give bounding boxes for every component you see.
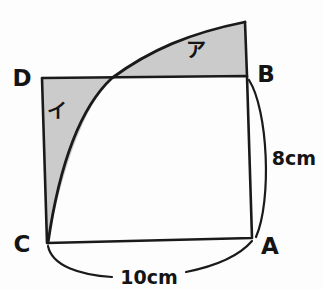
- figure-canvas: D B C A ア イ 8cm 10cm: [0, 0, 323, 290]
- vertex-label-c: C: [14, 231, 31, 257]
- dimension-label-height: 8cm: [272, 147, 316, 169]
- vertex-label-b: B: [257, 61, 275, 87]
- shaded-region-a: [112, 22, 247, 78]
- dimension-brace-width-right: [186, 241, 252, 272]
- vertex-label-a: A: [261, 233, 279, 259]
- geometry-figure: D B C A ア イ 8cm 10cm: [0, 0, 323, 290]
- region-label-i: イ: [47, 99, 67, 123]
- dimension-brace-width-left: [48, 246, 112, 277]
- vertex-label-d: D: [12, 65, 31, 91]
- dimension-label-width: 10cm: [120, 266, 178, 288]
- region-label-a: ア: [186, 38, 206, 62]
